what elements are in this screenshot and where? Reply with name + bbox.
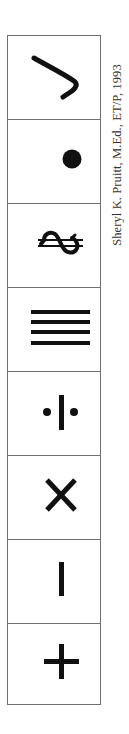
rotated-dollar-icon bbox=[8, 204, 100, 288]
symbol-cell-dot bbox=[8, 120, 100, 204]
four-horizontal-lines-icon bbox=[8, 288, 100, 372]
symbol-cell-dollar bbox=[8, 204, 100, 288]
filled-dot-icon bbox=[8, 120, 100, 204]
symbol-cell-bar bbox=[8, 540, 100, 624]
author-credit: Sheryl K. Pruitt, M.Ed., ET/P, 1993 bbox=[110, 64, 125, 246]
plus-icon bbox=[8, 624, 100, 708]
symbol-cell-lines bbox=[8, 288, 100, 372]
divide-bar-icon bbox=[8, 372, 100, 456]
symbol-cell-dot-bar-dot bbox=[8, 372, 100, 456]
symbol-cell-times bbox=[8, 456, 100, 540]
vertical-bar-icon bbox=[8, 540, 100, 624]
symbol-cell-hook bbox=[8, 36, 100, 120]
symbol-strip bbox=[7, 35, 101, 705]
hook-stroke-icon bbox=[8, 36, 100, 120]
x-multiply-icon bbox=[8, 456, 100, 540]
symbol-cell-plus bbox=[8, 624, 100, 708]
